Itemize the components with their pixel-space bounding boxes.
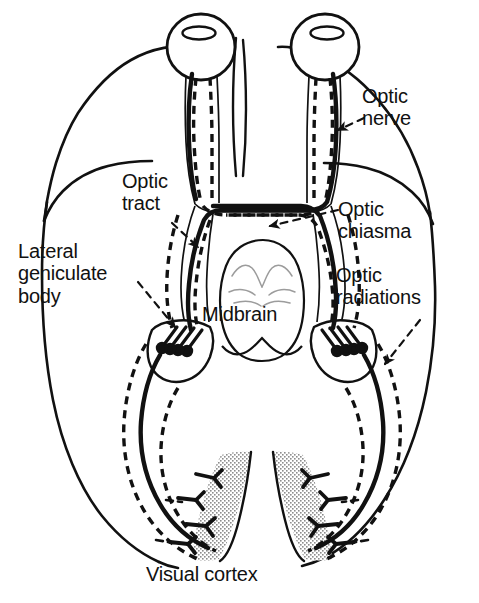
- right-eye: [291, 14, 359, 80]
- label-optic-tract: Optic tract: [122, 170, 168, 215]
- label-optic-nerve: Optic nerve: [362, 85, 411, 130]
- label-optic-chiasma: Optic chiasma: [338, 198, 411, 243]
- label-optic-radiations: Optic radiations: [336, 264, 421, 309]
- midbrain-outline: [220, 240, 304, 361]
- left-eye: [167, 14, 235, 80]
- label-visual-cortex: Visual cortex: [146, 563, 258, 585]
- leader-lgb: [138, 282, 175, 327]
- label-midbrain: Midbrain: [202, 303, 277, 325]
- midbrain: [220, 240, 304, 361]
- visual-pathway-figure: Optic nerve Optic tract Optic chiasma La…: [0, 0, 479, 603]
- label-lateral-geniculate-body: Lateral geniculate body: [18, 240, 107, 307]
- left-cornea: [183, 27, 216, 40]
- optic-nerve-sheaths: [185, 76, 341, 204]
- lateral-geniculate-body-left: [148, 320, 213, 382]
- lateral-geniculate-body-right: [311, 320, 376, 382]
- interhemispheric-fissure: [233, 38, 246, 176]
- leader-optic-nerve: [338, 118, 364, 130]
- leader-optic-radiations: [385, 320, 420, 364]
- right-cornea: [311, 27, 344, 40]
